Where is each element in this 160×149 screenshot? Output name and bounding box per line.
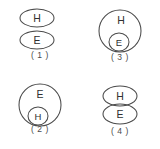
panel-3-caption: ( 3 ) — [80, 52, 160, 62]
panel-2-caption: ( 2 ) — [0, 124, 80, 134]
diagram-panel-1: H E ( 1 ) — [0, 0, 80, 74]
diagram-panel-3: H E ( 3 ) — [80, 0, 160, 74]
panel-4-drawing: H E — [80, 74, 160, 134]
panel-1-label-h: H — [33, 12, 41, 24]
panel-1-label-e: E — [33, 34, 40, 46]
panel-3-drawing: H E — [80, 0, 160, 60]
diagram-panel-4: H E ( 4 ) — [80, 74, 160, 148]
panel-4-label-h: H — [116, 90, 124, 102]
panel-2-label-e: E — [36, 88, 43, 100]
panel-4-caption: ( 4 ) — [80, 126, 160, 136]
panel-4-label-e: E — [116, 108, 123, 120]
diagram-panel-2: E H ( 2 ) — [0, 74, 80, 148]
panel-2-label-h: H — [35, 111, 42, 122]
figure-sheet: H E ( 1 ) H E ( 3 ) E H ( 2 ) H E — [0, 0, 160, 149]
panel-3-label-h: H — [117, 14, 125, 26]
panel-3-label-e: E — [116, 37, 122, 48]
panel-1-caption: ( 1 ) — [0, 50, 80, 60]
